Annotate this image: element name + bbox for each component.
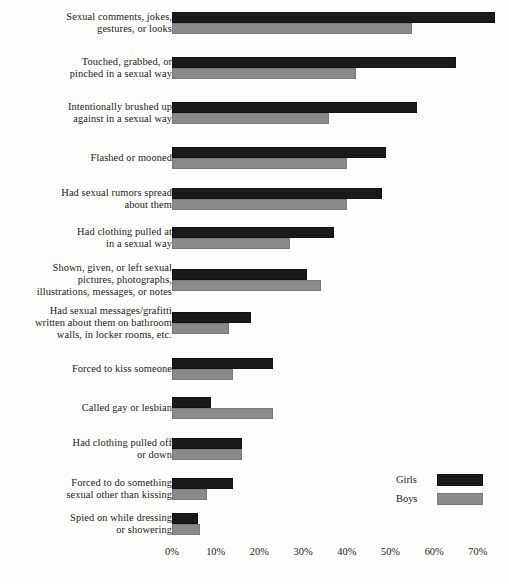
category-label-line: Sexual comments, jokes, (12, 11, 172, 23)
category-label-line: about them (12, 199, 172, 211)
category-label: Sexual comments, jokes,gestures, or look… (12, 11, 172, 35)
plot-area: Sexual comments, jokes,gestures, or look… (0, 0, 509, 540)
x-tick-label: 30% (294, 546, 313, 557)
category-label-line: written about them on bathroom (12, 317, 172, 329)
girls-swatch-icon (437, 474, 483, 486)
bar-boys (172, 68, 356, 79)
bar-group (172, 227, 334, 249)
bar-group (172, 147, 386, 169)
category-label: Shown, given, or left sexualpictures, ph… (12, 262, 172, 299)
bar-group (172, 397, 273, 419)
bar-group (172, 358, 273, 380)
category-label-line: pictures, photographs, (12, 274, 172, 286)
bar-boys (172, 408, 273, 419)
x-tick-label: 70% (468, 546, 487, 557)
bar-girls (172, 227, 334, 238)
category-label-line: Forced to do something (12, 477, 172, 489)
bar-girls (172, 12, 495, 23)
bar-girls (172, 147, 386, 158)
category-label-line: or down (12, 449, 172, 461)
legend-item-boys: Boys (396, 491, 496, 506)
chart-legend: Girls Boys (396, 472, 496, 510)
x-tick-label: 50% (381, 546, 400, 557)
chart-page: Sexual comments, jokes,gestures, or look… (0, 0, 509, 584)
category-label: Forced to kiss someone (12, 363, 172, 375)
category-label: Spied on while dressingor showering (12, 512, 172, 536)
bar-boys (172, 113, 329, 124)
legend-label-girls: Girls (396, 474, 430, 485)
bar-girls (172, 57, 456, 68)
bar-boys (172, 158, 347, 169)
x-tick-label: 0% (165, 546, 179, 557)
category-label: Had clothing pulled atin a sexual way (12, 226, 172, 250)
boys-swatch-icon (437, 493, 483, 505)
bar-girls (172, 102, 417, 113)
category-label-line: gestures, or looks (12, 23, 172, 35)
bar-group (172, 269, 321, 291)
category-label-line: Had clothing pulled off (12, 437, 172, 449)
category-label-line: illustrations, messages, or notes (12, 286, 172, 298)
category-label-line: Intentionally brushed up (12, 101, 172, 113)
bar-boys (172, 369, 233, 380)
bar-girls (172, 269, 307, 280)
category-label-line: walls, in locker rooms, etc. (12, 329, 172, 341)
category-label: Called gay or lesbian (12, 402, 172, 414)
x-tick-label: 10% (206, 546, 225, 557)
category-label-line: Had sexual rumors spread (12, 187, 172, 199)
bar-boys (172, 489, 207, 500)
bar-group (172, 102, 417, 124)
bar-girls (172, 312, 251, 323)
category-label-line: against in a sexual way (12, 113, 172, 125)
category-label-line: in a sexual way (12, 238, 172, 250)
bar-boys (172, 23, 412, 34)
category-label: Had sexual messages/grafittiwritten abou… (12, 305, 172, 342)
bar-girls (172, 513, 198, 524)
bar-boys (172, 280, 321, 291)
bar-girls (172, 397, 211, 408)
category-label: Had clothing pulled offor down (12, 437, 172, 461)
category-label-line: Flashed or mooned (12, 152, 172, 164)
bar-boys (172, 238, 290, 249)
bar-girls (172, 438, 242, 449)
category-label-line: Spied on while dressing (12, 512, 172, 524)
category-label: Flashed or mooned (12, 152, 172, 164)
bar-girls (172, 188, 382, 199)
bar-group (172, 478, 233, 500)
category-label-line: Forced to kiss someone (12, 363, 172, 375)
x-tick-label: 20% (250, 546, 269, 557)
category-label-line: pinched in a sexual way (12, 68, 172, 80)
category-label-line: Called gay or lesbian (12, 402, 172, 414)
category-label: Intentionally brushed upagainst in a sex… (12, 101, 172, 125)
bar-boys (172, 449, 242, 460)
x-tick-label: 40% (337, 546, 356, 557)
bar-group (172, 513, 200, 535)
category-label-line: Had sexual messages/grafitti (12, 305, 172, 317)
legend-item-girls: Girls (396, 472, 496, 487)
category-label: Had sexual rumors spreadabout them (12, 187, 172, 211)
bar-group (172, 57, 456, 79)
category-label: Forced to do somethingsexual other than … (12, 477, 172, 501)
bar-boys (172, 323, 229, 334)
bar-group (172, 312, 251, 334)
category-label-line: Shown, given, or left sexual (12, 262, 172, 274)
legend-label-boys: Boys (396, 493, 430, 504)
bar-group (172, 12, 495, 34)
bar-boys (172, 524, 200, 535)
bar-group (172, 188, 382, 210)
x-axis: 0%10%20%30%40%50%60%70% (0, 546, 509, 566)
bar-girls (172, 478, 233, 489)
category-label: Touched, grabbed, orpinched in a sexual … (12, 56, 172, 80)
category-label-line: or showering (12, 524, 172, 536)
bar-girls (172, 358, 273, 369)
category-label-line: Touched, grabbed, or (12, 56, 172, 68)
bar-boys (172, 199, 347, 210)
category-label-line: sexual other than kissing (12, 489, 172, 501)
x-tick-label: 60% (425, 546, 444, 557)
bar-group (172, 438, 242, 460)
category-label-line: Had clothing pulled at (12, 226, 172, 238)
